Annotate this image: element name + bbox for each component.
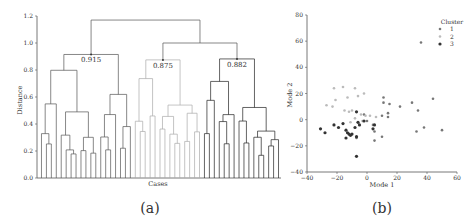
merge-annotation: 0.875 — [153, 62, 173, 70]
y-tick-label: 60 — [295, 37, 303, 44]
data-point — [382, 101, 385, 104]
x-tick-label: 20 — [393, 174, 401, 181]
y-axis-label: Mode 2 — [286, 83, 294, 108]
data-point — [364, 114, 367, 117]
legend-label: 1 — [450, 25, 454, 32]
y-tick-label: 1.0 — [23, 39, 33, 46]
data-point — [369, 114, 372, 117]
y-tick-label: 0.0 — [23, 174, 33, 181]
data-point — [363, 92, 366, 95]
y-tick-label: 20 — [295, 90, 303, 97]
legend-label: 2 — [450, 33, 454, 40]
data-point — [411, 101, 414, 104]
merge-annotation: 0.882 — [227, 61, 247, 69]
panel-label-a: (a) — [140, 200, 159, 216]
data-point — [341, 122, 344, 125]
data-point — [331, 105, 334, 108]
data-point — [441, 129, 444, 132]
data-point — [366, 120, 369, 123]
data-point — [323, 131, 326, 134]
data-point — [353, 126, 356, 129]
panel-label-b: (b) — [372, 200, 392, 216]
x-tick-label: 40 — [423, 174, 431, 181]
x-tick-label: 0 — [365, 174, 369, 181]
data-point — [420, 41, 423, 44]
data-point — [332, 123, 335, 126]
y-tick-label: 40 — [295, 63, 303, 70]
data-point — [373, 139, 376, 142]
data-point — [354, 117, 357, 120]
x-tick-label: 60 — [453, 174, 461, 181]
data-point — [333, 87, 336, 90]
data-point — [415, 130, 418, 133]
data-point — [337, 126, 340, 129]
data-point — [387, 116, 390, 119]
data-point — [373, 123, 376, 126]
y-axis-label: Distance — [16, 85, 24, 114]
x-tick-label: −20 — [331, 174, 344, 181]
figure: 0.00.20.40.60.81.01.2CasesDistance0.9150… — [0, 0, 476, 223]
scatter-panel: −40−200204060−40−20020406080Mode 1Mode 2… — [286, 11, 463, 189]
legend-marker — [439, 35, 442, 38]
data-point — [344, 136, 347, 139]
y-tick-label: 1.2 — [23, 12, 33, 19]
data-point — [355, 110, 358, 113]
data-point — [382, 96, 385, 99]
data-point — [373, 130, 376, 133]
data-point — [355, 155, 358, 158]
legend-label: 3 — [450, 40, 454, 47]
data-point — [360, 113, 363, 116]
data-point — [343, 109, 346, 112]
data-point — [357, 95, 360, 98]
data-point — [381, 135, 384, 138]
x-tick-label: −40 — [301, 174, 314, 181]
data-point — [325, 104, 328, 107]
dendrogram-panel: 0.00.20.40.60.81.01.2CasesDistance0.9150… — [16, 12, 281, 188]
data-point — [346, 96, 349, 99]
legend-marker — [438, 42, 441, 45]
legend-title: Cluster — [441, 18, 463, 25]
y-tick-label: 80 — [295, 11, 303, 18]
y-tick-label: −20 — [290, 142, 303, 149]
data-point — [362, 119, 365, 122]
data-point — [399, 105, 402, 108]
data-point — [423, 126, 426, 129]
data-point — [355, 135, 358, 138]
y-tick-label: 0.8 — [23, 66, 33, 73]
x-axis-label: Mode 1 — [370, 181, 395, 189]
x-axis-label: Cases — [148, 180, 167, 188]
legend-marker — [439, 28, 442, 31]
legend: Cluster123 — [438, 18, 463, 47]
data-point — [350, 132, 353, 135]
data-point — [375, 116, 378, 119]
data-point — [348, 111, 351, 114]
data-point — [432, 97, 435, 100]
y-tick-label: 0.4 — [23, 120, 33, 127]
data-point — [358, 123, 361, 126]
merge-annotation: 0.915 — [81, 56, 101, 64]
data-point — [351, 109, 354, 112]
data-point — [371, 127, 374, 130]
y-tick-label: 0.2 — [23, 147, 33, 154]
data-point — [381, 114, 384, 117]
data-point — [388, 103, 391, 106]
data-point — [349, 121, 352, 124]
data-point — [387, 112, 390, 115]
data-point — [342, 86, 345, 89]
y-tick-label: −40 — [290, 168, 303, 175]
data-point — [417, 109, 420, 112]
data-point — [354, 87, 357, 90]
y-tick-label: 0 — [299, 116, 303, 123]
data-point — [319, 127, 322, 130]
y-tick-label: 0.6 — [23, 93, 33, 100]
data-point — [334, 99, 337, 102]
